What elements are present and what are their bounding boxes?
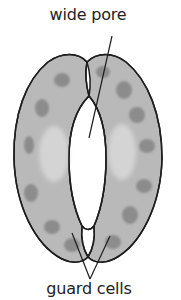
stoma-diagram: wide pore guard cells: [0, 0, 181, 300]
label-wide-pore: wide pore: [50, 5, 127, 24]
vacuole-left: [39, 126, 69, 182]
stoma-figure: [0, 0, 181, 300]
vacuole-right: [108, 124, 136, 180]
label-guard-cells: guard cells: [46, 279, 131, 298]
